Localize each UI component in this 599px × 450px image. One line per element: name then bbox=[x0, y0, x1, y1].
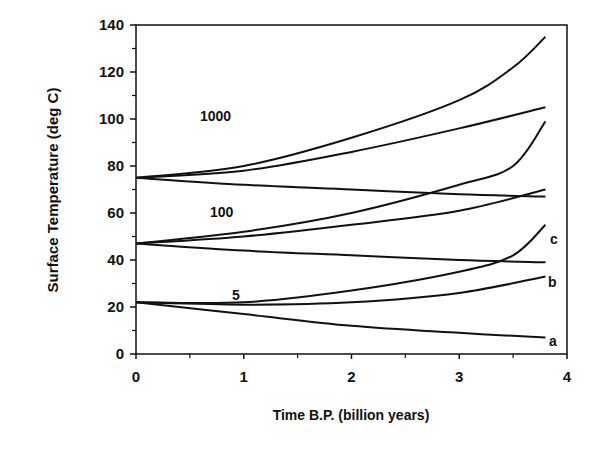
y-tick-label: 120 bbox=[99, 63, 124, 80]
series-line-1000-a bbox=[136, 178, 545, 197]
chart: 01234020406080100120140 1000 100 5 c b a… bbox=[0, 0, 599, 450]
x-tick-label: 4 bbox=[563, 368, 572, 385]
series-line-5-a bbox=[136, 302, 545, 337]
label-a: a bbox=[549, 333, 557, 349]
y-tick-label: 100 bbox=[99, 110, 124, 127]
y-tick-label: 80 bbox=[107, 157, 124, 174]
y-tick-label: 0 bbox=[116, 345, 124, 362]
y-tick-label: 40 bbox=[107, 251, 124, 268]
label-c: c bbox=[550, 231, 558, 247]
y-axis-label: Surface Temperature (deg C) bbox=[44, 88, 61, 293]
x-axis-label: Time B.P. (billion years) bbox=[273, 407, 430, 423]
x-tick-label: 0 bbox=[132, 368, 140, 385]
x-tick-label: 2 bbox=[347, 368, 355, 385]
label-5: 5 bbox=[232, 287, 240, 303]
label-b: b bbox=[548, 274, 557, 290]
series-line-5-b bbox=[136, 276, 545, 304]
curves bbox=[136, 37, 545, 338]
y-tick-label: 140 bbox=[99, 16, 124, 33]
label-100: 100 bbox=[210, 204, 234, 220]
series-line-1000-b bbox=[136, 107, 545, 178]
series-line-100-b bbox=[136, 190, 545, 244]
series-line-1000-c bbox=[136, 37, 545, 178]
x-tick-label: 1 bbox=[240, 368, 248, 385]
y-tick-label: 60 bbox=[107, 204, 124, 221]
x-tick-label: 3 bbox=[455, 368, 463, 385]
label-1000: 1000 bbox=[200, 108, 231, 124]
y-tick-label: 20 bbox=[107, 298, 124, 315]
series-line-100-a bbox=[136, 244, 545, 263]
